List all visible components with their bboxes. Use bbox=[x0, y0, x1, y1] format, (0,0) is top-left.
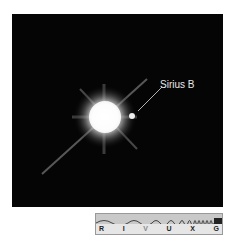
band-i: I bbox=[123, 224, 125, 234]
band-u: U bbox=[167, 224, 172, 234]
sirius-a bbox=[42, 79, 147, 174]
band-r: R bbox=[99, 224, 104, 234]
sirius-b bbox=[129, 113, 135, 119]
band-x: X bbox=[190, 224, 195, 234]
wave-icon bbox=[96, 214, 222, 224]
wavelength-bar: R I V U X G bbox=[95, 213, 223, 235]
band-v: V bbox=[143, 224, 148, 234]
band-labels: R I V U X G bbox=[96, 224, 222, 234]
sirius-b-label: Sirius B bbox=[160, 79, 194, 90]
label-pointer bbox=[138, 87, 162, 111]
star-photo bbox=[12, 14, 223, 207]
band-g: G bbox=[214, 224, 219, 234]
